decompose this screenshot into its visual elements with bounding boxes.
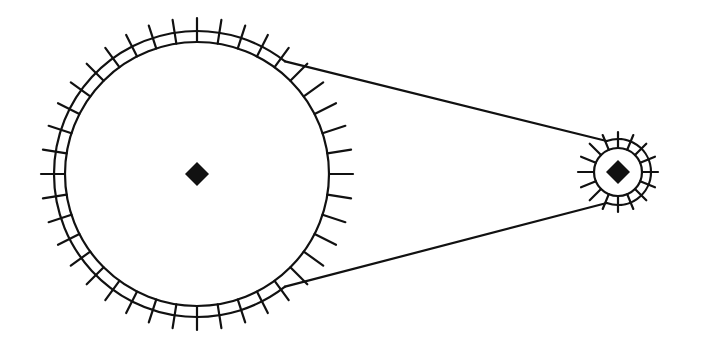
large-sprocket-hub-icon bbox=[185, 162, 209, 186]
large-sprocket-tooth bbox=[327, 195, 351, 199]
chain-lower-span bbox=[285, 203, 607, 287]
large-sprocket-tooth bbox=[327, 150, 351, 154]
large-sprocket-tooth bbox=[304, 252, 323, 266]
large-sprocket-tooth bbox=[304, 82, 323, 96]
small-sprocket-tooth bbox=[590, 189, 601, 200]
large-sprocket-tooth bbox=[315, 103, 336, 114]
large-sprocket-tooth bbox=[323, 126, 346, 133]
small-sprocket-tooth bbox=[581, 181, 596, 187]
small-sprocket-tooth bbox=[590, 144, 601, 155]
chain-drive-diagram: Chain drive: large sprocket and small sp… bbox=[0, 0, 706, 339]
small-sprocket-hub-icon bbox=[606, 160, 630, 184]
large-sprocket-tooth bbox=[315, 234, 336, 245]
small-sprocket bbox=[578, 132, 658, 212]
diagram-canvas bbox=[0, 0, 706, 339]
small-sprocket-tooth bbox=[603, 194, 609, 209]
large-sprocket-tooth bbox=[323, 215, 346, 222]
small-sprocket-tooth bbox=[581, 157, 596, 163]
small-sprocket-tooth bbox=[603, 135, 609, 150]
large-sprocket bbox=[41, 18, 353, 330]
large-sprocket-chain-wrap bbox=[54, 31, 285, 317]
